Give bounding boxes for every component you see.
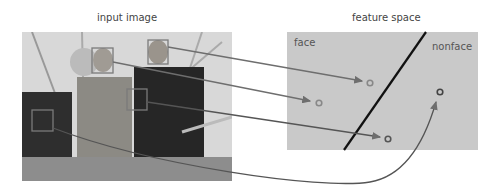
arrow-chair xyxy=(53,102,436,183)
point-face-2 xyxy=(316,100,322,106)
face-box-right-man xyxy=(148,40,168,64)
point-nonface-1 xyxy=(437,89,443,95)
arrow-right-face xyxy=(168,47,362,81)
hand-box xyxy=(127,89,147,110)
point-face-1 xyxy=(367,80,373,86)
point-face-3 xyxy=(385,136,391,142)
face-box-left-man xyxy=(92,48,113,73)
chair-box xyxy=(32,110,53,131)
arrow-hand xyxy=(147,102,380,137)
diagram-overlay xyxy=(0,0,497,196)
boundary-line xyxy=(344,32,426,150)
arrow-left-face xyxy=(113,62,310,101)
